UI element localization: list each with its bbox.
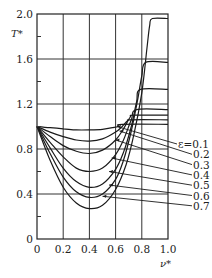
y-tick-label: 0: [26, 233, 33, 245]
legend: ε=0.10.20.30.40.50.60.7: [178, 138, 210, 212]
y-axis-title: T*: [11, 28, 23, 39]
x-tick-label: 0.4: [81, 243, 98, 255]
curves: [37, 18, 168, 209]
y-tick-label: 0.4: [16, 188, 33, 200]
y-tick-label: 1.6: [16, 53, 33, 65]
x-tick-label: 0.8: [133, 243, 150, 255]
x-axis: 00.20.40.60.81.0: [34, 243, 177, 255]
series-line-eps-7: [37, 18, 168, 209]
series-line-eps-1: [37, 124, 168, 130]
x-tick-label: 0.6: [107, 243, 124, 255]
x-tick-label: 1.0: [160, 243, 177, 255]
series-line-eps-2: [37, 120, 168, 141]
x-tick-label: 0.2: [55, 243, 72, 255]
x-axis-title: ν*: [160, 258, 171, 269]
y-tick-label: 2.0: [16, 8, 33, 20]
legend-label: 0.7: [193, 200, 210, 212]
leader-arrowhead: [103, 195, 107, 198]
x-tick-label: 0: [34, 243, 41, 255]
y-tick-label: 0.8: [16, 143, 33, 155]
y-tick-label: 1.2: [16, 98, 33, 110]
leader-arrowhead: [109, 170, 113, 173]
series-line-eps-5: [37, 88, 168, 187]
chart: 00.40.81.21.62.0 00.20.40.60.81.0 ε=0.10…: [0, 0, 212, 278]
